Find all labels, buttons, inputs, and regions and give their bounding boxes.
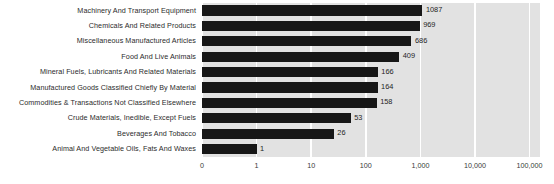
bar-row[interactable]: 26 [202,126,540,141]
bar-value-label: 969 [423,20,435,31]
category-label: Commodities & Transactions Not Classifie… [0,98,196,108]
x-tick-label: 100 [360,160,372,171]
category-label: Crude Materials, Inedible, Except Fuels [0,113,196,123]
x-axis: 01101001,00010,000100,000 [202,160,540,176]
bar-value-label: 686 [415,36,427,47]
bar[interactable] [202,5,422,15]
x-tick-label: 10 [307,160,315,171]
bar-value-label: 166 [381,67,393,78]
bar-row[interactable]: 409 [202,49,540,64]
bar-chart: Machinery And Transport EquipmentChemica… [0,0,554,184]
bar[interactable] [202,21,420,31]
x-tick-label: 1 [255,160,259,171]
category-label: Animal And Vegetable Oils, Fats And Waxe… [0,144,196,154]
category-label: Manufactured Goods Classified Chiefly By… [0,83,196,93]
category-axis: Machinery And Transport EquipmentChemica… [0,3,196,157]
x-tick-label: 100,000 [517,160,543,171]
x-tick-label: 0 [200,160,204,171]
bar-row[interactable]: 1087 [202,3,540,18]
x-tick-label: 10,000 [464,160,486,171]
category-label: Chemicals And Related Products [0,21,196,31]
bar-row[interactable]: 686 [202,34,540,49]
bar-row[interactable]: 53 [202,111,540,126]
bar-value-label: 26 [337,128,345,139]
x-tick-label: 1,000 [411,160,429,171]
bar-value-label: 158 [380,97,392,108]
category-label: Machinery And Transport Equipment [0,6,196,16]
bar-value-label: 53 [354,113,362,124]
bar[interactable] [202,144,257,154]
bar-value-label: 164 [381,82,393,93]
bar-row[interactable]: 166 [202,65,540,80]
bar-row[interactable]: 164 [202,80,540,95]
plot-area: 108796968640916616415853261 [202,3,540,157]
bar[interactable] [202,129,334,139]
category-label: Beverages And Tobacco [0,129,196,139]
bar-value-label: 1 [260,144,264,155]
bar-row[interactable]: 1 [202,142,540,157]
bar-value-label: 1087 [426,5,442,16]
bar[interactable] [202,36,411,46]
bar-row[interactable]: 158 [202,95,540,110]
bar-row[interactable]: 969 [202,18,540,33]
category-label: Miscellaneous Manufactured Articles [0,36,196,46]
bar[interactable] [202,82,378,92]
category-label: Mineral Fuels, Lubricants And Related Ma… [0,67,196,77]
bar[interactable] [202,67,378,77]
bar-value-label: 409 [403,51,415,62]
bar[interactable] [202,113,351,123]
category-label: Food And Live Animals [0,52,196,62]
bar[interactable] [202,98,377,108]
bar[interactable] [202,52,399,62]
